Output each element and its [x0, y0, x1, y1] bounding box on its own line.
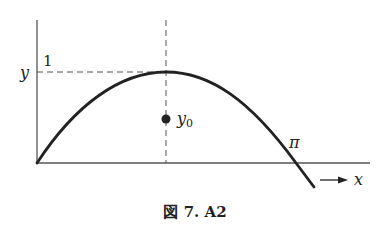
label-x-axis: x — [354, 170, 363, 189]
label-one: 1 — [43, 52, 53, 70]
solution-curve — [37, 72, 314, 187]
label-y0-subscript: 0 — [186, 117, 193, 130]
sine-arc-diagram: 1 y y0 π x — [0, 0, 390, 233]
figure-caption: 図 7. A2 — [0, 200, 390, 221]
label-pi: π — [288, 133, 300, 152]
initial-point-y0 — [162, 115, 171, 124]
arrow-right-icon — [338, 177, 348, 184]
label-y-axis: y — [19, 63, 30, 82]
label-y0: y0 — [176, 109, 193, 130]
